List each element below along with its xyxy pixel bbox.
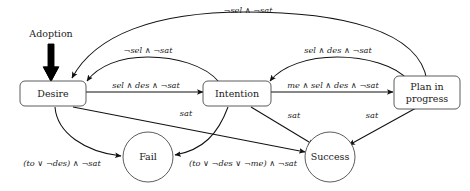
node-success[interactable]: Success xyxy=(305,132,355,182)
edge-intention-to-desire-label: ¬sel ∧ ¬sat xyxy=(124,45,174,55)
node-plan-in-progress-label-line1: Plan in xyxy=(410,81,443,92)
edge-plan-to-intention-label: sel ∧ des ∧ ¬sat xyxy=(304,45,372,55)
edge-plan-to-desire-label: ¬sel ∧ ¬sat xyxy=(224,5,274,15)
state-diagram: ¬sel ∧ ¬sat ¬sel ∧ ¬sat sel ∧ des ∧ ¬sat… xyxy=(0,0,470,191)
edge-intention-to-plan: me ∧ sel ∧ des ∧ ¬sat xyxy=(271,80,393,92)
edge-intention-to-fail: (to ∨ ¬des ∨ ¬me) ∧ ¬sat xyxy=(175,107,298,168)
edge-plan-to-success-label: sat xyxy=(366,110,379,120)
edge-desire-to-success: sat xyxy=(73,107,305,152)
edge-desire-to-fail: (to ∨ ¬des) ∧ ¬sat xyxy=(23,107,121,168)
node-intention-label: Intention xyxy=(215,88,259,99)
edge-intention-to-success-label: sat xyxy=(288,110,301,120)
edge-desire-to-success-label: sat xyxy=(180,108,193,118)
node-intention[interactable]: Intention xyxy=(203,81,271,106)
edge-plan-to-desire: ¬sel ∧ ¬sat xyxy=(72,5,427,81)
edge-intention-to-success-path xyxy=(251,107,314,145)
edge-intention-to-desire-path xyxy=(87,57,219,82)
entry-adoption-arrowhead-icon xyxy=(44,67,59,81)
edge-plan-to-intention: sel ∧ des ∧ ¬sat xyxy=(270,45,409,81)
edge-intention-to-fail-label: (to ∨ ¬des ∨ ¬me) ∧ ¬sat xyxy=(189,158,298,168)
node-desire-label: Desire xyxy=(37,88,69,99)
node-plan-in-progress[interactable]: Plan in progress xyxy=(394,76,460,109)
node-fail-label: Fail xyxy=(139,151,157,162)
node-plan-in-progress-label-line2: progress xyxy=(406,93,448,104)
edge-intention-to-success: sat xyxy=(251,107,314,145)
edge-desire-to-fail-label: (to ∨ ¬des) ∧ ¬sat xyxy=(23,158,101,168)
edge-plan-to-success-path xyxy=(349,108,416,145)
edge-intention-to-plan-label: me ∧ sel ∧ des ∧ ¬sat xyxy=(287,80,379,90)
entry-adoption-label: Adoption xyxy=(28,28,72,39)
entry-adoption: Adoption xyxy=(28,28,72,81)
edge-desire-to-intention: sel ∧ des ∧ ¬sat xyxy=(86,80,203,92)
node-fail[interactable]: Fail xyxy=(123,132,173,182)
edge-plan-to-success: sat xyxy=(349,108,416,145)
edge-intention-to-desire: ¬sel ∧ ¬sat xyxy=(87,45,219,82)
edge-desire-to-intention-label: sel ∧ des ∧ ¬sat xyxy=(112,80,180,90)
node-desire[interactable]: Desire xyxy=(20,81,86,106)
edge-plan-to-intention-path xyxy=(270,57,409,81)
node-success-label: Success xyxy=(311,151,350,162)
